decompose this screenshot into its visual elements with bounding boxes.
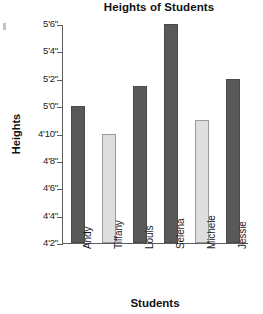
bar (226, 79, 240, 243)
x-axis-label: Michele (206, 215, 217, 249)
bar (164, 24, 178, 243)
y-axis-tick-label: 5'4" (43, 45, 58, 56)
x-axis-label: Andy (82, 227, 93, 249)
y-axis-tick-label: 4'4" (43, 210, 58, 221)
chart-title: Heights of Students (55, 1, 263, 13)
bar (133, 86, 147, 243)
y-axis-tick-label: 4'10" (38, 128, 58, 139)
bar (71, 106, 85, 243)
y-axis-title: Heights (10, 104, 22, 164)
scan-artifact (3, 23, 6, 30)
y-axis-tick-label: 5'0" (43, 100, 58, 111)
x-axis-label: Tiffany (113, 220, 124, 249)
y-axis-tick-label: 5'6" (43, 18, 58, 29)
y-axis-tick-label: 4'8" (43, 155, 58, 166)
x-axis-title: Students (62, 297, 248, 309)
y-axis-tick-label: 5'2" (43, 73, 58, 84)
x-axis-label: Louis (144, 226, 155, 249)
x-axis-label: Selena (175, 218, 186, 249)
y-axis-tick-label: 4'6" (43, 182, 58, 193)
plot-area: 5'6"5'4"5'2"5'0"4'10"4'8"4'6"4'4"4'2" An… (62, 25, 248, 244)
y-axis-tick-label: 4'2" (43, 237, 58, 248)
bar-chart-figure: Heights of Students Heights 5'6"5'4"5'2"… (0, 0, 263, 314)
x-axis-label: Jessie (237, 221, 248, 249)
